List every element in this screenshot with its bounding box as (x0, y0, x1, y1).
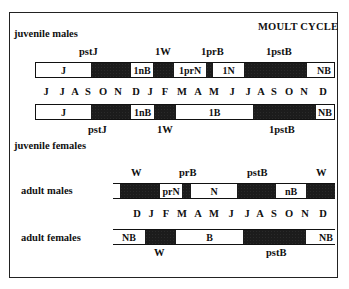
segment-plumage (113, 184, 120, 198)
juvenile-month-axis: J J A S O N D J F M A M J J A S O N D (0, 86, 349, 98)
segment-NB: NB (306, 230, 335, 244)
label-1pstB: 1pstB (269, 125, 295, 136)
segment-moult (237, 184, 276, 198)
month: S (271, 86, 277, 97)
segment-moult (306, 184, 335, 198)
month: J (147, 86, 152, 97)
month: N (300, 86, 308, 97)
month: M (209, 208, 219, 219)
segment-moult (91, 63, 131, 77)
month: J (59, 86, 64, 97)
label-W: W (131, 168, 142, 179)
segment-moult (91, 105, 131, 119)
label-juvenile-males: juvenile males (14, 29, 78, 40)
month: S (271, 208, 277, 219)
month: A (194, 86, 202, 97)
label-W: W (316, 168, 327, 179)
month: N (301, 208, 309, 219)
adult-male-moult-bar: prN N nB (113, 183, 335, 199)
segment-moult (145, 230, 176, 244)
month: J (43, 86, 48, 97)
month: A (194, 208, 202, 219)
month: M (177, 208, 187, 219)
segment-moult (153, 63, 174, 77)
month: D (132, 86, 140, 97)
segment-B: B (176, 230, 243, 244)
segment-nB: nB (276, 184, 306, 198)
label-pstJ: pstJ (79, 47, 98, 58)
label-pstB: pstB (247, 168, 267, 179)
segment-1prN: 1prN (174, 63, 206, 77)
label-1prB: 1prB (201, 47, 224, 58)
segment-1nB: 1nB (131, 63, 153, 77)
segment-moult (253, 105, 316, 119)
month: N (114, 86, 122, 97)
segment-NB: NB (113, 230, 145, 244)
segment-moult (243, 230, 306, 244)
diagram-title: MOULT CYCLE (258, 22, 338, 33)
segment-1N: 1N (213, 63, 244, 77)
month: D (319, 86, 327, 97)
label-pstJ: pstJ (88, 125, 107, 136)
juvenile-male-moult-bar: J 1nB 1prN 1N NB (35, 62, 335, 78)
month: O (99, 86, 107, 97)
month: F (162, 86, 168, 97)
adult-female-moult-bar: NB B NB (113, 229, 335, 245)
month: A (71, 86, 79, 97)
segment-moult (154, 105, 176, 119)
month: J (245, 86, 250, 97)
month: M (209, 86, 219, 97)
month: O (285, 208, 293, 219)
segment-1nB: 1nB (131, 105, 154, 119)
segment-prN: prN (160, 184, 182, 198)
label-juvenile-females: juvenile females (14, 141, 86, 152)
adult-month-axis: D J F M A M J J A S O N D (0, 208, 349, 220)
month: O (285, 86, 293, 97)
label-adult-females: adult females (21, 233, 81, 244)
segment-moult (244, 63, 307, 77)
label-pstB: pstB (266, 248, 286, 259)
month: S (85, 86, 91, 97)
label-W: W (154, 248, 165, 259)
segment-NB: NB (307, 63, 333, 77)
label-adult-males: adult males (21, 186, 73, 197)
month: J (244, 208, 249, 219)
month: A (256, 208, 264, 219)
segment-J: J (36, 105, 91, 119)
month: D (319, 208, 327, 219)
month: A (257, 86, 265, 97)
juvenile-female-moult-bar: J 1nB 1B NB (35, 104, 335, 120)
segment-NB: NB (316, 105, 333, 119)
segment-J: J (36, 63, 91, 77)
month: J (229, 86, 234, 97)
month: D (133, 208, 141, 219)
label-prB: prB (179, 168, 197, 179)
month: J (228, 208, 233, 219)
month: J (148, 208, 153, 219)
segment-moult (206, 63, 213, 77)
label-1pstB: 1pstB (266, 47, 292, 58)
segment-1B: 1B (176, 105, 253, 119)
segment-N: N (191, 184, 237, 198)
month: M (177, 86, 187, 97)
segment-moult (120, 184, 160, 198)
label-1W: 1W (155, 47, 171, 58)
label-1W: 1W (157, 125, 173, 136)
segment-moult (182, 184, 191, 198)
month: F (163, 208, 169, 219)
